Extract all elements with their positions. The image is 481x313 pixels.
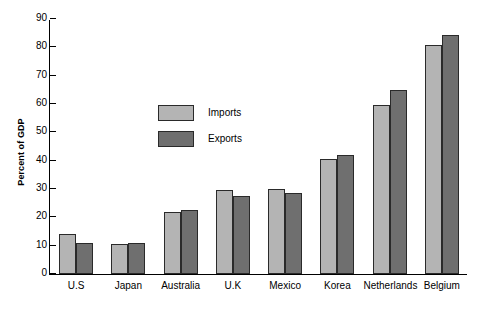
y-axis-tick-label: 80 <box>36 40 47 52</box>
bar-exports-uk <box>233 196 250 274</box>
bar-group: Belgium <box>416 20 468 274</box>
y-axis-tick-label: 30 <box>36 182 47 194</box>
bar-exports-belgium <box>442 35 459 274</box>
y-axis-tick-label: 10 <box>36 239 47 251</box>
x-axis-label: U.S <box>50 280 102 292</box>
bar-imports-japan <box>111 244 128 274</box>
y-axis-tick-label: 90 <box>36 12 47 24</box>
legend-swatch-imports-icon <box>158 105 194 121</box>
bar-group: U.S <box>50 20 102 274</box>
bar-imports-uk <box>216 190 233 274</box>
y-axis-title: Percent of GDP <box>16 87 26 217</box>
y-axis-tick-label: 40 <box>36 154 47 166</box>
chart-legend: Imports Exports <box>158 104 242 156</box>
bar-imports-netherlands <box>373 105 390 274</box>
legend-label-exports: Exports <box>208 133 242 145</box>
bar-exports-australia <box>181 210 198 274</box>
legend-label-imports: Imports <box>208 107 241 119</box>
y-axis-tick-label: 0 <box>41 267 47 279</box>
bar-group: Mexico <box>259 20 311 274</box>
x-axis-label: Australia <box>155 280 207 292</box>
bar-imports-korea <box>320 159 337 274</box>
bar-group: Japan <box>102 20 154 274</box>
x-axis-label: Belgium <box>416 280 468 292</box>
y-axis-tick: 90 <box>50 18 56 19</box>
bar-imports-us <box>59 234 76 274</box>
bar-group: Korea <box>311 20 363 274</box>
bar-exports-mexico <box>285 193 302 274</box>
y-axis-tick-label: 50 <box>36 125 47 137</box>
x-axis-label: Japan <box>102 280 154 292</box>
bar-imports-australia <box>164 212 181 274</box>
bar-imports-belgium <box>425 45 442 275</box>
bars-layer: U.SJapanAustraliaU.KMexicoKoreaNetherlan… <box>50 20 467 274</box>
x-axis-label: Netherlands <box>364 280 416 292</box>
bar-group: Netherlands <box>364 20 416 274</box>
bar-exports-japan <box>128 243 145 274</box>
plot-area: 0102030405060708090 U.SJapanAustraliaU.K… <box>49 20 467 275</box>
legend-swatch-exports-icon <box>158 131 194 147</box>
y-axis-tick-label: 70 <box>36 69 47 81</box>
bar-exports-us <box>76 243 93 274</box>
x-axis-label: Korea <box>311 280 363 292</box>
bar-chart: Percent of GDP 0102030405060708090 U.SJa… <box>0 0 481 313</box>
y-axis-tick-label: 60 <box>36 97 47 109</box>
x-axis-label: U.K <box>207 280 259 292</box>
legend-item-exports: Exports <box>158 130 242 147</box>
bar-imports-mexico <box>268 189 285 274</box>
bar-exports-korea <box>337 155 354 274</box>
legend-item-imports: Imports <box>158 104 242 121</box>
bar-exports-netherlands <box>390 90 407 274</box>
x-axis-label: Mexico <box>259 280 311 292</box>
y-axis-tick-label: 20 <box>36 210 47 222</box>
